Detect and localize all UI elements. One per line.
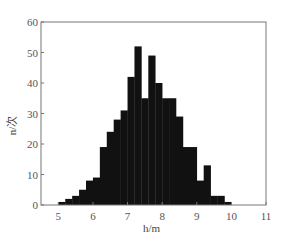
histogram-bars [58,46,231,205]
histogram-bar [128,77,135,205]
histogram-chart: 567891011 0102030405060 h/m n/次 [0,0,284,241]
x-tick-label: 11 [261,210,272,222]
x-tick-label: 7 [125,210,131,222]
histogram-bar [93,178,100,205]
y-tick-label: 50 [27,47,39,59]
histogram-bar [79,190,86,205]
histogram-bar [65,199,72,205]
histogram-bar [100,147,107,205]
histogram-bar [121,110,128,205]
histogram-bar [86,181,93,205]
y-tick-label: 40 [27,77,39,89]
histogram-bar [114,120,121,205]
histogram-bar [183,147,190,205]
y-tick-label: 20 [27,138,39,150]
histogram-bar [211,196,218,205]
histogram-bar [169,98,176,205]
x-axis-label: h/m [143,222,161,234]
histogram-bar [107,132,114,205]
histogram-bar [72,196,79,205]
histogram-bar [134,46,141,205]
y-tick-label: 30 [27,108,39,120]
y-tick-label: 10 [27,169,39,181]
y-axis-label: n/次 [5,116,18,136]
x-tick-label: 8 [159,210,165,222]
histogram-bar [148,56,155,205]
histogram-bar [197,181,204,205]
histogram-bar [176,117,183,205]
histogram-bar [162,98,169,205]
histogram-bar [155,83,162,205]
histogram-bar [218,196,225,205]
x-tick-label: 9 [194,210,200,222]
y-tick-label: 60 [27,16,39,28]
x-tick-label: 10 [226,210,238,222]
histogram-bar [190,147,197,205]
histogram-bar [141,98,148,205]
x-tick-label: 5 [56,210,62,222]
x-tick-label: 6 [90,210,96,222]
histogram-bar [204,165,211,205]
y-tick-label: 0 [33,199,39,211]
